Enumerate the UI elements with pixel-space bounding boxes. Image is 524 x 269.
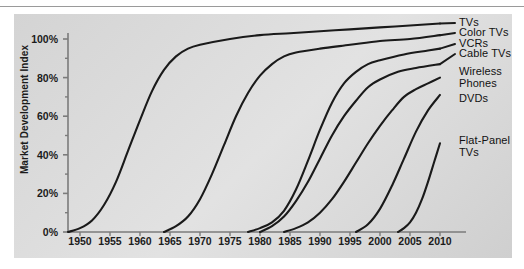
axis-lines — [68, 33, 466, 232]
series-label-wireless-phones: Wireless Phones — [459, 66, 502, 89]
axis-tick-marks — [63, 39, 440, 236]
series-lines — [68, 24, 440, 232]
chart-plot-area — [0, 0, 524, 269]
x-tick-label: 2010 — [420, 236, 460, 247]
label-leader-lines — [440, 23, 455, 64]
series-line-wireless-phones — [284, 78, 440, 232]
chart-figure: Market Development Index 0%20%40%60%80%1… — [0, 0, 524, 269]
series-line-color-tvs — [164, 35, 440, 232]
series-label-cable-tvs: Cable TVs — [459, 48, 511, 60]
series-label-dvds: DVDs — [459, 93, 488, 105]
series-label-flat-panel-tvs: Flat-Panel TVs — [459, 135, 510, 158]
series-line-dvds — [356, 95, 440, 232]
